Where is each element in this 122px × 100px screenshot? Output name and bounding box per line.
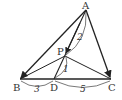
label-d: D	[50, 82, 58, 93]
label-b: B	[13, 82, 20, 93]
label-c: C	[108, 82, 116, 93]
measure-dc: 5	[80, 84, 86, 94]
segment-ac	[86, 10, 110, 77]
measure-bd: 3	[34, 84, 40, 94]
triangle-diagram: A B C D P 2 1 3 5	[0, 0, 122, 100]
measure-ap: 2	[76, 32, 83, 42]
segment-pb	[20, 56, 65, 79]
label-p: P	[57, 46, 64, 57]
measure-pd: 1	[63, 64, 69, 74]
segment-ab	[21, 10, 86, 78]
label-a: A	[81, 0, 90, 11]
